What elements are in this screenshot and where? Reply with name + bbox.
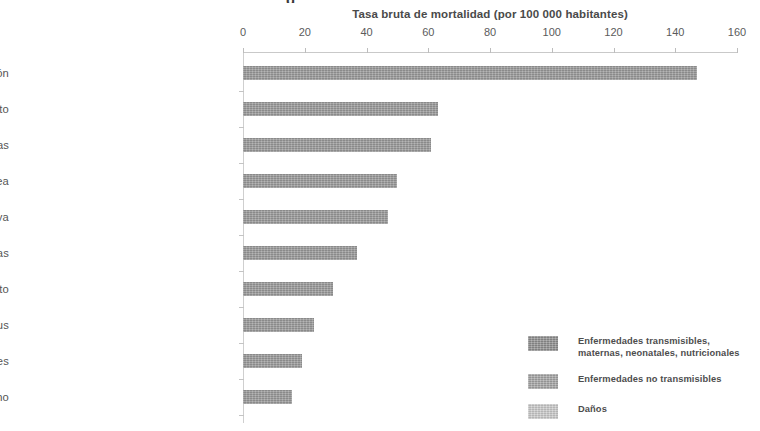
x-axis-tick-label: 40 [360,26,372,38]
bar [243,282,333,296]
category-label: Cáncer de colon y recto [0,283,9,295]
legend-swatch [528,336,558,351]
bar [243,174,397,188]
category-label: Enfermedad pulmonar obstructiva [0,211,9,223]
bar [243,246,357,260]
category-label: Cánceres de pulmón, tráquea [0,175,9,187]
category-label: Cáncer de pecho [0,391,9,403]
legend-swatch [528,404,558,419]
y-axis-tick-mark [239,307,244,308]
category-label: Diabetes mellitus [0,319,9,331]
category-label: Infecciones respiratorias [0,247,9,259]
x-axis-tick-mark [552,48,553,53]
bar [243,210,388,224]
legend-label-line: Enfermedades transmisibles, [578,336,740,348]
x-axis-tick-label: 140 [666,26,684,38]
y-axis-tick-mark [239,343,244,344]
x-axis-tick-label: 0 [240,26,246,38]
x-axis-tick-mark [243,48,244,53]
legend-item: Daños [528,404,607,419]
y-axis-tick-mark [239,163,244,164]
clipped-chart-title: g [286,0,312,3]
x-axis-tick-label: 60 [422,26,434,38]
x-axis-tick-mark [737,48,738,53]
legend-item: Enfermedades transmisibles,maternas, neo… [528,336,740,359]
plot-area: 020406080100120140160 [243,52,737,423]
y-axis-tick-mark [239,235,244,236]
x-axis-tick-mark [614,48,615,53]
category-label: Enfermedad isquémica del corazón [0,67,9,79]
x-axis-title: Tasa bruta de mortalidad (por 100 000 ha… [243,8,737,20]
bar [243,318,314,332]
legend-swatch [528,374,558,389]
x-axis-tick-label: 80 [484,26,496,38]
x-axis-tick-mark [490,48,491,53]
x-axis-tick-label: 20 [299,26,311,38]
legend-label: Enfermedades transmisibles,maternas, neo… [578,336,740,359]
y-axis-tick-mark [239,199,244,200]
legend-label-line: maternas, neonatales, nutricionales [578,348,740,360]
legend-item: Enfermedades no transmisibles [528,374,721,389]
x-axis-tick-label: 160 [728,26,746,38]
y-axis-tick-mark [239,271,244,272]
bar [243,138,431,152]
legend-label: Enfermedades no transmisibles [578,374,721,386]
y-axis-tick-mark [239,415,244,416]
bar [243,102,438,116]
x-axis-tick-label: 100 [543,26,561,38]
bar [243,390,292,404]
category-label: Alzheimer y otras demencias [0,139,9,151]
mortality-bar-chart-figure: g Tasa bruta de mortalidad (por 100 000 … [0,0,760,431]
category-label: Infarto [0,103,9,115]
bar [243,66,697,80]
y-axis-tick-mark [239,127,244,128]
category-label: Enfermedades renales [0,355,9,367]
x-axis-tick-mark [305,48,306,53]
x-axis-tick-mark [428,48,429,53]
bar [243,354,302,368]
x-axis-tick-mark [367,48,368,53]
legend-label-line: Daños [578,404,607,416]
y-axis-tick-mark [239,91,244,92]
legend-label: Daños [578,404,607,416]
legend-label-line: Enfermedades no transmisibles [578,374,721,386]
x-axis-tick-label: 120 [604,26,622,38]
x-axis-tick-mark [675,48,676,53]
y-axis-tick-mark [239,379,244,380]
